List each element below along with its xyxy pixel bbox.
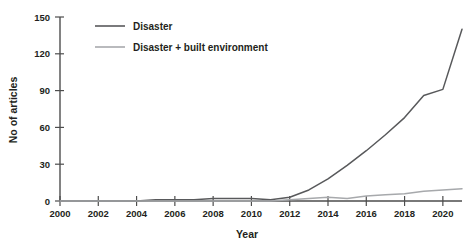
legend-label-1: Disaster + built environment [133, 42, 268, 53]
line-chart: 0306090120150 20002002200420062008201020… [0, 0, 465, 249]
legend-label-0: Disaster [133, 21, 173, 32]
x-tick-label: 2010 [241, 208, 262, 219]
x-tick-label: 2012 [279, 208, 300, 219]
x-tick-label: 2008 [203, 208, 224, 219]
y-axis-title: No of articles [7, 77, 19, 144]
y-tick-label: 90 [39, 85, 50, 96]
x-tick-label: 2006 [164, 208, 185, 219]
x-tick-label: 2000 [49, 208, 70, 219]
chart-svg: 0306090120150 20002002200420062008201020… [0, 0, 465, 249]
x-tick-label: 2020 [432, 208, 453, 219]
series-group [60, 29, 462, 201]
series-line-disaster [60, 29, 462, 201]
chart-legend: DisasterDisaster + built environment [95, 21, 268, 53]
y-tick-label: 30 [39, 159, 50, 170]
y-axis: 0306090120150 [34, 12, 64, 207]
x-tick-label: 2014 [317, 208, 339, 219]
x-tick-label: 2002 [88, 208, 109, 219]
y-tick-label: 120 [34, 48, 50, 59]
x-axis-title: Year [236, 228, 258, 240]
y-tick-label: 60 [39, 122, 50, 133]
y-tick-label: 150 [34, 12, 50, 23]
x-tick-label: 2016 [356, 208, 377, 219]
x-tick-group: 2000200220042006200820102012201420162018… [49, 196, 453, 219]
x-tick-label: 2018 [394, 208, 415, 219]
x-tick-label: 2004 [126, 208, 148, 219]
y-tick-label: 0 [45, 196, 50, 207]
